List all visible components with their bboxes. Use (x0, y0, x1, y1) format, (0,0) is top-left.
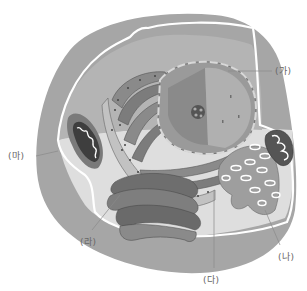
nucleolus (191, 105, 205, 119)
label-ma: (마) (8, 151, 25, 161)
label-ra: (라) (80, 237, 97, 247)
nucleus (158, 62, 256, 154)
label-ga: (가) (275, 66, 292, 76)
label-da: (다) (203, 275, 220, 285)
golgi-apparatus (107, 173, 200, 241)
label-na: (나) (278, 252, 295, 262)
cell-diagram: (가) (마) (라) (다) (나) (0, 0, 307, 291)
